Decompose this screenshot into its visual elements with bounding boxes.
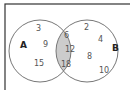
set-a-label: A: [20, 40, 27, 50]
a-value: 3: [36, 24, 41, 33]
intersection-value: 18: [61, 60, 71, 69]
intersection-value: 6: [64, 31, 69, 40]
intersection-value: 12: [65, 45, 75, 54]
b-value: 10: [99, 66, 109, 75]
set-b-label: B: [112, 43, 119, 53]
b-value: 2: [84, 23, 89, 32]
a-value: 15: [34, 59, 44, 68]
b-value: 4: [98, 35, 103, 44]
b-value: 8: [87, 52, 92, 61]
venn-diagram: A B 3 9 15 6 12 18 2 4 8 10: [0, 0, 130, 90]
a-value: 9: [43, 40, 48, 49]
